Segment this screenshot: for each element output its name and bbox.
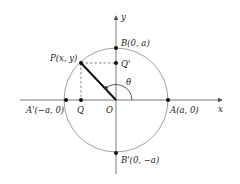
point-b-prime (114, 151, 118, 155)
label-p: P(x, y) (49, 53, 77, 63)
label-a-prime: A'(−a, 0) (25, 105, 64, 115)
point-q-prime (114, 61, 118, 65)
point-a (166, 98, 170, 102)
x-axis-label: x (218, 104, 223, 114)
label-q-prime: Q' (121, 59, 130, 69)
label-b-prime: B'(0, −a) (120, 155, 159, 165)
angle-label: θ (126, 77, 131, 87)
point-b (114, 46, 118, 50)
unit-circle-diagram: x y θ P(x, y) Q Q' O A(a, 0) A'(−a, 0) B… (0, 0, 240, 184)
y-axis-label: y (120, 12, 126, 22)
point-p (79, 61, 83, 65)
point-a-prime (64, 98, 68, 102)
label-b: B(0, a) (120, 38, 150, 48)
label-o: O (106, 105, 113, 115)
label-q: Q (77, 105, 84, 115)
point-q (79, 98, 83, 102)
radius-op (81, 63, 116, 100)
label-a: A(a, 0) (169, 105, 199, 115)
